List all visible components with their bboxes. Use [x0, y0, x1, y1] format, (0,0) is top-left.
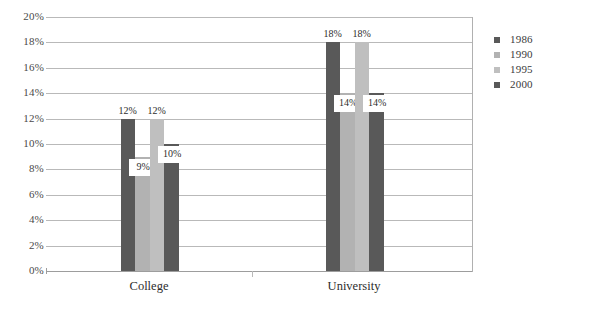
x-axis-group-tick	[252, 271, 253, 277]
chart-legend: 1986199019952000	[494, 33, 533, 93]
legend-swatch-icon	[494, 52, 500, 58]
bar	[326, 42, 341, 271]
legend-item[interactable]: 1995	[494, 63, 533, 76]
legend-swatch-icon	[494, 82, 500, 88]
bar	[369, 93, 384, 271]
legend-item-label: 1995	[510, 64, 533, 75]
bar	[150, 119, 165, 271]
legend-item[interactable]: 2000	[494, 78, 533, 91]
legend-item[interactable]: 1990	[494, 48, 533, 61]
legend-item[interactable]: 1986	[494, 33, 533, 46]
bar	[121, 119, 136, 271]
bar-value-label: 12%	[115, 106, 142, 116]
legend-item-label: 2000	[510, 79, 533, 90]
bar-value-label: 14%	[363, 95, 392, 112]
legend-item-label: 1990	[510, 49, 533, 60]
bar-value-label: 18%	[349, 29, 376, 39]
bar-value-label: 10%	[158, 146, 187, 163]
bar	[164, 144, 179, 271]
x-axis-category-label: College	[89, 280, 209, 293]
plot-right-divider	[472, 17, 473, 272]
bar	[340, 93, 355, 271]
legend-item-label: 1986	[510, 34, 533, 45]
legend-swatch-icon	[494, 67, 500, 73]
bar-value-label: 18%	[320, 29, 347, 39]
bar	[355, 42, 370, 271]
y-axis-stub	[46, 268, 47, 274]
bar-chart: 20%18%16%14%12%10%8%6%4%2%0% 12%9%12%10%…	[0, 0, 606, 311]
legend-swatch-icon	[494, 37, 500, 43]
x-axis-category-label: University	[294, 280, 414, 293]
bar-value-label: 12%	[144, 106, 171, 116]
